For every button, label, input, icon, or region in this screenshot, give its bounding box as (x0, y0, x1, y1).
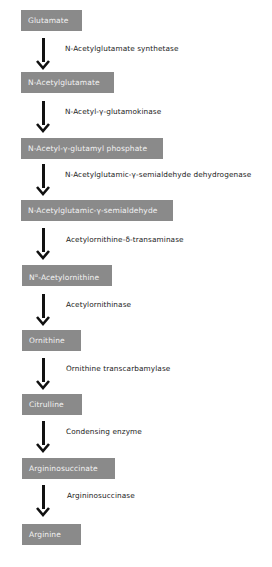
metabolite-ornithine: Ornithine (22, 330, 81, 351)
metabolite-argininosuccinate: Argininosuccinate (22, 458, 115, 479)
enzyme-label: Argininosuccinase (67, 491, 135, 500)
metabolite-glutamate: Glutamate (21, 10, 82, 31)
enzyme-label: Acetylornithinase (66, 300, 131, 309)
enzyme-label: Condensing enzyme (66, 427, 142, 436)
metabolite-n-acetyl-glutamyl-phosphate: N-Acetyl-γ-glutamyl phosphate (21, 138, 163, 159)
metabolite-n-acetylglutamate: N-Acetylglutamate (21, 72, 114, 93)
metabolite-arginine: Arginine (22, 524, 81, 545)
down-arrow-icon (36, 101, 50, 133)
down-arrow-icon (36, 164, 50, 196)
down-arrow-icon (36, 421, 50, 453)
down-arrow-icon (36, 38, 50, 70)
down-arrow-icon (36, 294, 50, 326)
enzyme-label: Acetylornithine-δ-transaminase (66, 235, 184, 244)
enzyme-label: N-Acetyl-γ-glutamokinase (65, 107, 161, 116)
enzyme-label: N-Acetylglutamate synthetase (65, 44, 179, 53)
metabolite-n-alpha-acetylornithine: Nα-Acetylornithine (22, 265, 112, 286)
down-arrow-icon (36, 358, 50, 390)
enzyme-label: Ornithine transcarbamylase (66, 364, 170, 373)
metabolite-citrulline: Citrulline (22, 394, 82, 415)
down-arrow-icon (36, 228, 50, 260)
metabolite-rest: -Acetylornithine (38, 273, 99, 282)
down-arrow-icon (36, 485, 50, 517)
enzyme-label: N-Acetylglutamic-γ-semialdehyde dehydrog… (65, 170, 251, 179)
metabolite-n-acetylglutamic-semialdehyde: N-Acetylglutamic-γ-semialdehyde (21, 200, 173, 221)
